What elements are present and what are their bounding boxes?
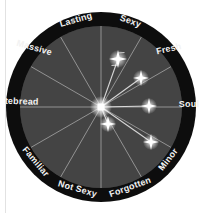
figure-root: Lasting Massive Whitebread Familiar Not …: [0, 0, 204, 213]
origin-square: [98, 104, 105, 111]
radar-wheel: Lasting Massive Whitebread Familiar Not …: [6, 2, 204, 213]
radar-wheel-svg: Lasting Massive Whitebread Familiar Not …: [6, 2, 204, 213]
origin-node: [90, 96, 112, 118]
band-label-whitebread[interactable]: Whitebread: [6, 95, 39, 107]
marker-lasting[interactable]: [109, 50, 127, 68]
marker-whitebread[interactable]: [141, 98, 157, 114]
marker-massive[interactable]: [133, 70, 149, 86]
marker-familiar[interactable]: [143, 134, 159, 150]
band-label-soul[interactable]: Soul: [179, 99, 199, 109]
marker-forgotten[interactable]: [100, 116, 116, 132]
